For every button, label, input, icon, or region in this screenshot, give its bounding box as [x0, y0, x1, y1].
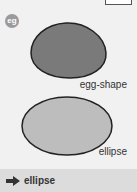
egg-shape	[31, 23, 106, 78]
arrow-right-icon	[6, 176, 20, 186]
ellipse-label: ellipse	[99, 146, 127, 157]
answer-text: ellipse	[24, 175, 55, 186]
egg-shape-label: egg-shape	[80, 79, 127, 90]
answer-bar: ellipse	[0, 169, 137, 192]
